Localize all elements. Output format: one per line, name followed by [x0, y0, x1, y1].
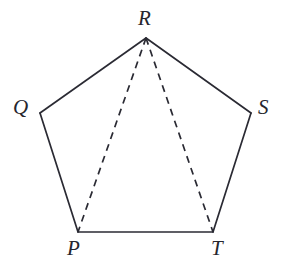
edge-r-s	[146, 38, 251, 113]
pentagon-diagram: R Q S P T	[0, 0, 286, 268]
pentagon-figure-canvas	[0, 0, 286, 268]
vertex-label-s: S	[258, 97, 269, 118]
edge-q-p	[40, 113, 78, 232]
vertex-label-r: R	[138, 8, 151, 29]
diagonal-r-p	[78, 38, 146, 232]
pentagon-dashed-diagonals	[78, 38, 213, 232]
diagonal-r-t	[146, 38, 213, 232]
pentagon-solid-edges	[40, 38, 251, 232]
edge-s-t	[213, 113, 251, 232]
vertex-label-p: P	[67, 238, 80, 259]
vertex-label-t: T	[211, 238, 223, 259]
vertex-label-q: Q	[13, 97, 28, 118]
edge-q-r	[40, 38, 146, 113]
